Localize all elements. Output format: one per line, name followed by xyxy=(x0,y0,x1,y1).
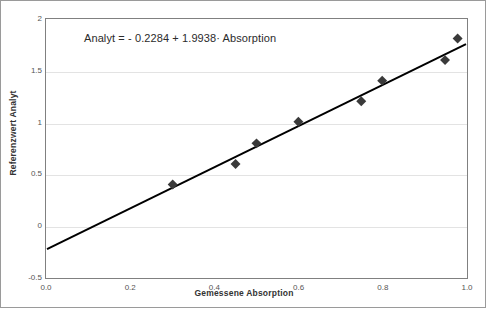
y-axis-title: Referenzwert Analyt xyxy=(8,68,18,198)
regression-equation-annotation: Analyt = - 0.2284 + 1.9938· Absorption xyxy=(84,32,276,44)
chart-container: 21.510.50-0.5 0.00.20.40.60.81.0 Analyt … xyxy=(0,0,488,310)
x-axis-tick-labels: 0.00.20.40.60.81.0 xyxy=(0,0,488,310)
x-axis-title: Gemessene Absorption xyxy=(0,288,488,298)
